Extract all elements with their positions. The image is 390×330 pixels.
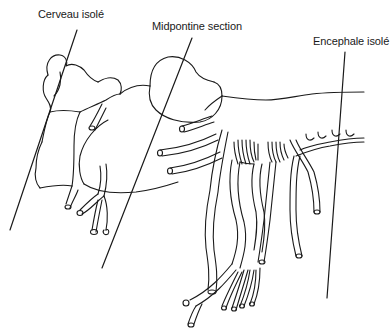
branching-stalk bbox=[77, 164, 109, 235]
cut-line-encephale-isole bbox=[327, 52, 345, 298]
cranial-nerve-stubs bbox=[89, 104, 222, 174]
brainstem-diagram: Cerveau isolé Midpontine section Encepha… bbox=[0, 0, 390, 330]
pons-body bbox=[35, 57, 222, 209]
brainstem-drawing bbox=[0, 0, 390, 330]
